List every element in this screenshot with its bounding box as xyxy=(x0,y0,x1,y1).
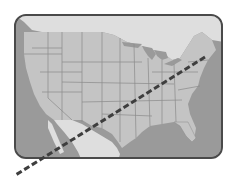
map-frame xyxy=(14,14,223,159)
us-map xyxy=(16,16,223,159)
